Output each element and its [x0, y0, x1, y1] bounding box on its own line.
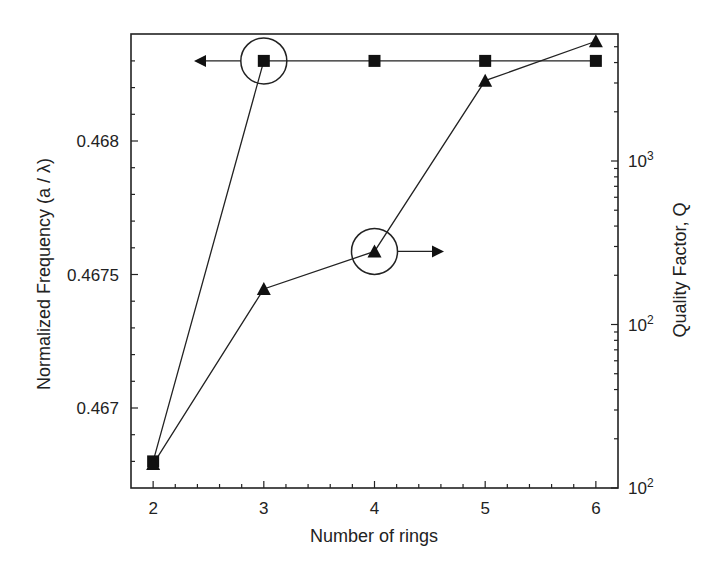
square-marker — [369, 55, 381, 67]
plot-frame — [131, 34, 618, 488]
x-tick-label: 4 — [370, 499, 379, 518]
axis-ticks — [131, 47, 618, 488]
y-left-tick-label: 0.4675 — [67, 266, 119, 285]
annotations — [194, 38, 444, 274]
square-marker — [258, 55, 270, 67]
triangle-marker — [478, 74, 492, 87]
triangle-marker — [257, 282, 271, 295]
y-left-tick-label: 0.468 — [76, 132, 119, 151]
x-axis-label: Number of rings — [310, 526, 438, 546]
x-tick-label: 3 — [259, 499, 268, 518]
plot-border — [131, 34, 618, 488]
triangle-marker — [368, 244, 382, 257]
square-marker — [590, 55, 602, 67]
arrow-right-icon — [432, 245, 444, 257]
y-right-tick-label: 102 — [628, 313, 654, 335]
x-tick-label: 2 — [148, 499, 157, 518]
y-axis-label-right: Quality Factor, Q — [670, 202, 690, 337]
frequency-line — [153, 61, 596, 462]
square-marker — [479, 55, 491, 67]
x-tick-label: 6 — [591, 499, 600, 518]
y-right-tick-label: 103 — [628, 149, 654, 171]
triangle-marker — [589, 34, 603, 47]
chart: 234560.4670.46750.468102102103 Number of… — [0, 0, 715, 576]
data-series — [146, 34, 603, 470]
y-left-tick-label: 0.467 — [76, 399, 119, 418]
y-right-tick-label: 102 — [628, 476, 654, 498]
arrow-left-icon — [194, 55, 206, 67]
x-tick-label: 5 — [480, 499, 489, 518]
y-axis-label-left: Normalized Frequency (a / λ) — [34, 158, 54, 390]
